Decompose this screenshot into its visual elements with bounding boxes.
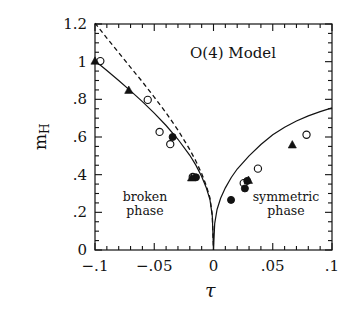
marker-open-circle [303,131,310,138]
marker-open-circle [167,141,174,148]
marker-open-circle [254,165,261,172]
marker-filled-circle [228,196,235,203]
curves [95,23,332,250]
plot-frame [95,24,332,250]
marker-filled-circle [241,185,248,192]
marker-open-circle [144,96,151,103]
axis-frame [95,24,332,250]
tick-marks [95,24,332,250]
data-markers [91,57,310,204]
figure-container: mH τ O(4) Model broken phase symmetric p… [0,0,351,314]
marker-open-circle [156,128,163,135]
curve-dashed-curve [95,23,214,250]
plot-canvas [0,0,351,314]
marker-filled-circle [169,134,176,141]
marker-filled-triangle [288,141,296,148]
